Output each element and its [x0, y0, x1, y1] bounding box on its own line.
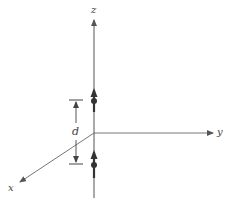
y-axis-label: y: [217, 127, 223, 137]
upper-dipole-arrow-icon: [91, 88, 98, 97]
diagram-canvas: [0, 0, 237, 204]
dimension-label: d: [72, 126, 79, 137]
upper-dipole-dot-icon: [91, 98, 97, 104]
lower-dipole: [91, 150, 98, 178]
lower-dipole-arrow-icon: [91, 150, 98, 159]
x-axis-label: x: [8, 183, 14, 193]
x-axis: [20, 133, 94, 182]
upper-dipole: [91, 88, 98, 112]
lower-dipole-dot-icon: [91, 162, 97, 168]
dipole-diagram: z y x d: [0, 0, 237, 204]
z-axis-label: z: [91, 5, 96, 15]
